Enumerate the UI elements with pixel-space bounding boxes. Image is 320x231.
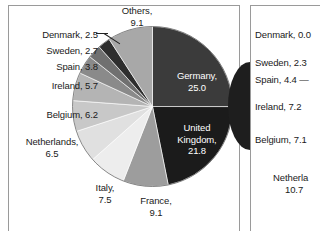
- pie-label-uk-value: 21.8: [166, 145, 228, 157]
- pie-label-spain: Spain, 3.8: [2, 61, 98, 73]
- pie-label-others: Others, 9.1: [106, 5, 168, 28]
- pie-label-right-denmark: Denmark, 0.0: [255, 29, 311, 41]
- pie-label-right-ireland: Ireland, 7.2: [255, 101, 301, 113]
- pie-label-sweden-text: Sweden, 2.7: [2, 45, 98, 57]
- pie-label-spain-text: Spain, 3.8: [2, 61, 98, 73]
- pie-label-italy-name: Italy,: [84, 182, 126, 194]
- figure-root: Others, 9.1 Denmark, 2.5 Sweden, 2.7 Spa…: [0, 0, 320, 231]
- pie-label-italy: Italy, 7.5: [84, 182, 126, 205]
- pie-label-netherlands-value: 6.5: [6, 148, 98, 160]
- pie-label-others-value: 9.1: [106, 17, 168, 29]
- pie-label-belgium: Belgium, 6.2: [2, 109, 98, 121]
- pie-label-right-sweden: Sweden, 2.3: [255, 57, 307, 69]
- pie-label-ireland: Ireland, 5.7: [2, 80, 98, 92]
- pie-label-france-name: France,: [132, 195, 180, 207]
- pie-label-belgium-text: Belgium, 6.2: [2, 109, 98, 121]
- pie-label-right-netherlands: Netherla: [273, 172, 308, 184]
- pie-label-united-kingdom: United Kingdom, 21.8: [166, 122, 228, 157]
- pie-label-germany-value: 25.0: [168, 82, 226, 94]
- pie-label-italy-value: 7.5: [84, 194, 126, 206]
- pie-label-germany: Germany, 25.0: [168, 70, 226, 93]
- pie-label-france: France, 9.1: [132, 195, 180, 218]
- pie-label-sweden: Sweden, 2.7: [2, 45, 98, 57]
- pie-label-right-netherlands-value: 10.7: [285, 184, 303, 196]
- pie-label-netherlands-name: Netherlands,: [6, 136, 98, 148]
- pie-label-germany-name: Germany,: [168, 70, 226, 82]
- pie-label-others-name: Others,: [106, 5, 168, 17]
- pie-slice-germany: [153, 27, 233, 107]
- pie-label-france-value: 9.1: [132, 207, 180, 219]
- pie-label-netherlands: Netherlands, 6.5: [6, 136, 98, 159]
- pie-label-denmark-text: Denmark, 2.5: [2, 29, 98, 41]
- pie-label-right-belgium: Belgium, 7.1: [255, 134, 307, 146]
- pie-label-right-spain: Spain, 4.4 —: [255, 74, 309, 86]
- pie-label-uk-name-2: Kingdom,: [166, 134, 228, 146]
- pie-label-denmark: Denmark, 2.5: [2, 29, 98, 41]
- pie-label-ireland-text: Ireland, 5.7: [2, 80, 98, 92]
- pie-label-uk-name-1: United: [166, 122, 228, 134]
